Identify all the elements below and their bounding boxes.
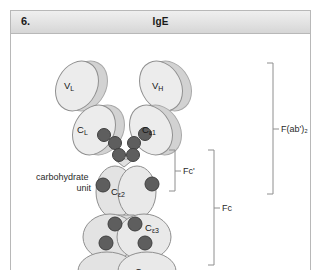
- bracket-fc-line: [208, 150, 214, 265]
- carb-dot-hinge-l1: [98, 129, 111, 142]
- bracket-fab2: F(ab')₂: [267, 63, 308, 194]
- carb-dot-hinge-l2: [109, 137, 122, 150]
- igE-structure-diagram: VL CL VH Cε1 Cε2 Cε3 Cε4 carbohy: [11, 34, 310, 270]
- bracket-fcprime-line: [169, 150, 175, 191]
- carbohydrate-unit-label: carbohydrate unit: [36, 172, 92, 193]
- carb-dot-ce3-br: [138, 236, 152, 250]
- figure-title: IgE: [11, 16, 310, 27]
- bracket-fcprime-label: Fc': [183, 166, 195, 176]
- carb-dot-hinge-l3: [113, 149, 126, 162]
- figure-card: 6. IgE: [10, 10, 311, 270]
- figure-body: VL CL VH Cε1 Cε2 Cε3 Cε4 carbohy: [11, 34, 310, 270]
- carb-dot-ce3-tl: [108, 217, 122, 231]
- figure-header-band: 6. IgE: [11, 11, 310, 34]
- bracket-fab2-label: F(ab')₂: [281, 124, 308, 134]
- bracket-fc-label: Fc: [222, 203, 232, 213]
- bracket-fcprime: Fc': [169, 150, 195, 191]
- carb-dot-hinge-r2: [128, 137, 141, 150]
- carb-dot-hinge-r3: [127, 149, 140, 162]
- bracket-fab2-line: [267, 63, 273, 194]
- carb-dot-ce3-tr: [128, 217, 142, 231]
- carb-dot-ce2-right: [145, 177, 159, 191]
- bracket-fc: Fc: [208, 150, 232, 265]
- carb-dot-ce3-bl: [99, 236, 113, 250]
- carb-dot-ce2-left: [96, 178, 110, 192]
